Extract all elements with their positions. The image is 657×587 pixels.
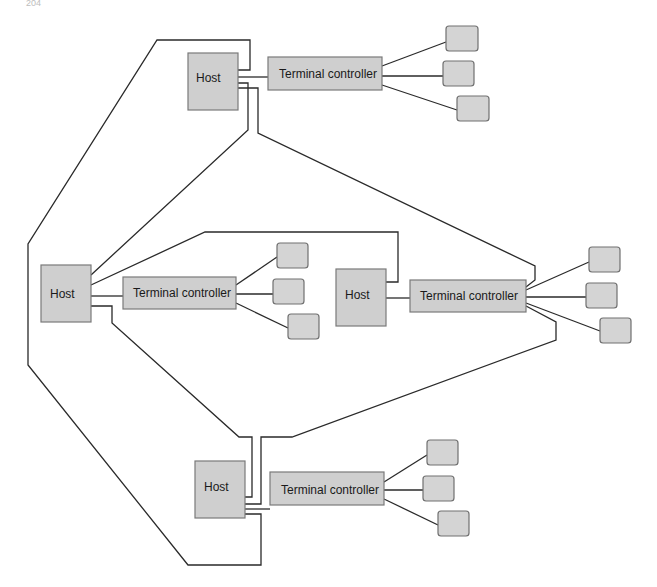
terminal-controller-top-label: Terminal controller <box>279 67 377 81</box>
terminal-left-1[interactable] <box>277 243 308 268</box>
terminal-left-3[interactable] <box>288 314 319 339</box>
terminal-top-2[interactable] <box>443 61 474 86</box>
terminal-bottom-1[interactable] <box>427 440 458 465</box>
terminal-bottom-2[interactable] <box>423 476 454 501</box>
network-diagram: 204 H <box>0 0 657 587</box>
terminal-right-1[interactable] <box>589 247 620 272</box>
host-left-label: Host <box>50 287 75 301</box>
wire-top-host-to-left-host <box>91 83 248 275</box>
wire-top-tc-terminal-3 <box>382 85 457 110</box>
wire-bottom-tc-terminal-3 <box>384 499 438 525</box>
host-right-label: Host <box>345 288 370 302</box>
cluster-right: Host Terminal controller <box>336 247 631 343</box>
wire-top-tc-terminal-1 <box>382 42 446 66</box>
wire-left-tc-terminal-3 <box>236 303 288 328</box>
terminal-right-2[interactable] <box>586 283 617 308</box>
terminal-controller-bottom-label: Terminal controller <box>281 483 379 497</box>
wire-left-tc-terminal-1 <box>236 257 277 285</box>
terminal-controller-left-label: Terminal controller <box>133 286 231 300</box>
wire-bottom-tc-terminal-1 <box>384 455 427 482</box>
terminal-left-2[interactable] <box>273 279 304 304</box>
terminal-controller-right-label: Terminal controller <box>420 289 518 303</box>
cluster-bottom: Host Terminal controller <box>195 440 469 536</box>
cluster-left: Host Terminal controller <box>41 243 319 339</box>
terminal-top-3[interactable] <box>457 96 489 121</box>
page-number: 204 <box>26 0 41 8</box>
host-bottom-label: Host <box>204 480 229 494</box>
terminal-bottom-3[interactable] <box>438 511 469 536</box>
host-top-label: Host <box>196 71 221 85</box>
terminal-top-1[interactable] <box>446 26 478 51</box>
terminal-right-3[interactable] <box>600 318 631 343</box>
